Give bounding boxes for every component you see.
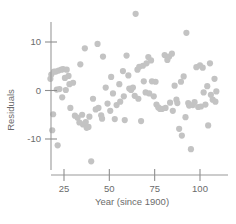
data-point — [100, 53, 106, 59]
data-point — [120, 68, 126, 74]
data-point — [104, 100, 110, 106]
data-point — [179, 133, 185, 139]
data-point — [211, 76, 217, 82]
data-point — [205, 122, 211, 128]
data-point — [64, 67, 70, 73]
data-point — [182, 114, 188, 120]
data-point — [170, 108, 176, 114]
data-point — [151, 93, 157, 99]
data-point — [117, 99, 123, 105]
data-point — [162, 105, 168, 111]
data-point — [99, 116, 105, 122]
data-point — [178, 79, 184, 85]
data-point — [55, 142, 61, 148]
data-point — [63, 87, 69, 93]
data-point — [130, 84, 136, 90]
data-point — [56, 86, 62, 92]
data-point — [110, 90, 116, 96]
data-point — [181, 73, 187, 79]
y-tick-label: -10 — [27, 133, 41, 144]
data-point — [108, 74, 114, 80]
data-point — [112, 116, 118, 122]
data-point — [135, 96, 141, 102]
data-point — [107, 108, 113, 114]
x-axis-title: Year (since 1900) — [95, 196, 169, 207]
data-point — [116, 81, 122, 87]
data-point — [172, 83, 178, 89]
data-point — [70, 80, 76, 86]
data-point — [176, 126, 182, 132]
data-point — [201, 89, 207, 95]
data-point — [79, 112, 85, 118]
data-point — [103, 84, 109, 90]
data-point — [65, 73, 71, 79]
data-point — [67, 105, 73, 111]
data-points-layer — [47, 11, 219, 165]
data-point — [200, 65, 206, 71]
data-point — [138, 118, 144, 124]
x-tick-label: 100 — [192, 183, 208, 194]
data-point — [167, 100, 173, 106]
data-point — [207, 60, 213, 66]
data-point — [133, 11, 139, 17]
data-point — [141, 78, 147, 84]
data-point — [88, 158, 94, 164]
data-point — [94, 41, 100, 47]
data-point — [59, 94, 65, 100]
data-point — [174, 100, 180, 106]
data-point — [148, 57, 154, 63]
data-point — [49, 127, 55, 133]
data-point — [212, 99, 218, 105]
data-point — [82, 45, 88, 51]
data-point — [169, 51, 175, 57]
data-point — [122, 117, 128, 123]
x-tick-label: 75 — [149, 183, 160, 194]
x-axis-ticks: 255075100 — [59, 169, 208, 194]
data-point — [95, 105, 101, 111]
data-point — [85, 124, 91, 130]
data-point — [125, 72, 131, 78]
y-axis-title: Residuals — [5, 89, 16, 131]
data-point — [90, 96, 96, 102]
data-point — [123, 52, 129, 58]
data-point — [86, 114, 92, 120]
data-point — [77, 61, 83, 67]
data-point — [152, 79, 158, 85]
data-point — [213, 88, 219, 94]
y-tick-label: 0 — [36, 85, 41, 96]
data-point — [188, 146, 194, 152]
data-point — [204, 83, 210, 89]
x-tick-label: 50 — [104, 183, 115, 194]
x-tick-label: 25 — [59, 183, 70, 194]
plot-canvas: 100-10 255075100 Residuals Year (since 1… — [0, 0, 236, 224]
scatter-plot-figure: 100-10 255075100 Residuals Year (since 1… — [0, 0, 236, 224]
data-point — [183, 30, 189, 36]
y-tick-label: 10 — [30, 36, 41, 47]
data-point — [202, 101, 208, 107]
data-point — [121, 93, 127, 99]
